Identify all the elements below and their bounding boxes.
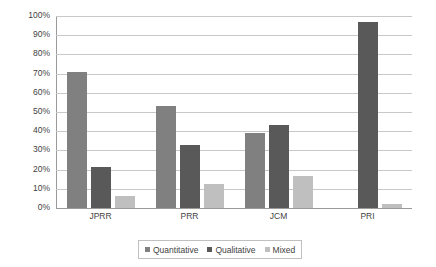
- legend-label: Mixed: [273, 245, 296, 255]
- y-axis-tick-label: 90%: [4, 30, 50, 39]
- y-axis-tick-label: 20%: [4, 165, 50, 174]
- bar-group: [323, 16, 412, 208]
- x-axis-label-prr: PRR: [145, 211, 234, 222]
- bar-qualitative-jprr: [91, 167, 111, 208]
- y-axis-tick-label: 80%: [4, 49, 50, 58]
- legend-item-mixed[interactable]: Mixed: [265, 245, 296, 255]
- legend-swatch-icon: [265, 247, 270, 252]
- y-axis-tick-label: 50%: [4, 107, 50, 116]
- bar-chart: 0%10%20%30%40%50%60%70%80%90%100% JPRRPR…: [0, 0, 436, 267]
- x-axis-category-labels: JPRRPRRJCMPRI: [56, 211, 412, 225]
- bar-quantitative-prr: [156, 106, 176, 208]
- bar-quantitative-jcm: [245, 133, 265, 208]
- legend-label: Qualitative: [215, 245, 255, 255]
- x-axis-label-jcm: JCM: [234, 211, 323, 222]
- plot-area: [56, 16, 412, 208]
- x-axis-label-pri: PRI: [323, 211, 412, 222]
- legend-swatch-icon: [145, 247, 150, 252]
- chart-legend: QuantitativeQualitativeMixed: [138, 240, 302, 259]
- y-axis-tick-label: 30%: [4, 145, 50, 154]
- legend-item-qualitative[interactable]: Qualitative: [207, 245, 255, 255]
- legend-label: Quantitative: [153, 245, 198, 255]
- bar-qualitative-jcm: [269, 125, 289, 208]
- bar-mixed-jprr: [115, 196, 135, 208]
- bar-qualitative-pri: [358, 22, 378, 208]
- y-axis-tick-label: 60%: [4, 88, 50, 97]
- bar-mixed-prr: [204, 184, 224, 208]
- y-axis-tick-label: 40%: [4, 126, 50, 135]
- gridline: [56, 208, 412, 209]
- bar-group: [56, 16, 145, 208]
- y-axis-tick-label: 100%: [4, 11, 50, 20]
- y-axis-tick-label: 70%: [4, 69, 50, 78]
- bar-group: [234, 16, 323, 208]
- legend-swatch-icon: [207, 247, 212, 252]
- bar-mixed-pri: [382, 204, 402, 208]
- bar-qualitative-prr: [180, 145, 200, 208]
- bar-quantitative-jprr: [67, 72, 87, 208]
- bar-group: [145, 16, 234, 208]
- y-axis-tick-label: 0%: [4, 203, 50, 212]
- legend-item-quantitative[interactable]: Quantitative: [145, 245, 198, 255]
- y-axis-tick-labels: 0%10%20%30%40%50%60%70%80%90%100%: [0, 16, 50, 208]
- bar-mixed-jcm: [293, 176, 313, 208]
- x-axis-label-jprr: JPRR: [56, 211, 145, 222]
- y-axis-tick-label: 10%: [4, 184, 50, 193]
